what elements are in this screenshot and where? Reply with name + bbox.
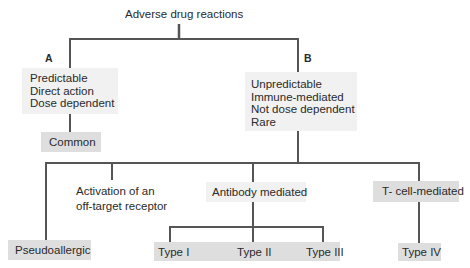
type-i-label: Type I — [158, 246, 189, 259]
trait-predictable: Predictable — [30, 72, 118, 85]
antibody-mediated-label: Antibody mediated — [212, 186, 306, 199]
type-iii-label: Type III — [306, 246, 344, 259]
trait-not-dose-dependent: Not dose dependent — [251, 103, 357, 116]
trait-dose-dependent: Dose dependent — [30, 97, 118, 110]
trait-immune-mediated: Immune-mediated — [251, 91, 357, 104]
trait-direct-action: Direct action — [30, 85, 118, 98]
tcell-mediated-label: T- cell-mediated — [382, 185, 459, 198]
pseudoallergic-box: Pseudoallergic — [8, 240, 91, 260]
branch-b-traits-box: Unpredictable Immune-mediated Not dose d… — [245, 72, 357, 131]
type-iv-label: Type IV — [402, 246, 441, 259]
activation-line-2: off-target receptor — [76, 200, 167, 213]
common-label: Common — [49, 136, 101, 149]
type-iv-box: Type IV — [398, 243, 441, 261]
branch-a-traits-box: Predictable Direct action Dose dependent — [22, 68, 118, 114]
antibody-mediated-box: Antibody mediated — [206, 182, 306, 202]
pseudoallergic-label: Pseudoallergic — [15, 244, 91, 257]
branch-a-label: A — [45, 52, 53, 64]
branch-b-label: B — [304, 52, 312, 64]
trait-unpredictable: Unpredictable — [251, 78, 357, 91]
common-box: Common — [41, 132, 101, 152]
trait-rare: Rare — [251, 116, 357, 129]
diagram-title: Adverse drug reactions — [125, 8, 243, 21]
activation-off-target: Activation of an off-target receptor — [76, 185, 167, 212]
type-ii-label: Type II — [237, 246, 272, 259]
tcell-mediated-box: T- cell-mediated — [373, 181, 459, 202]
activation-line-1: Activation of an — [76, 185, 167, 198]
